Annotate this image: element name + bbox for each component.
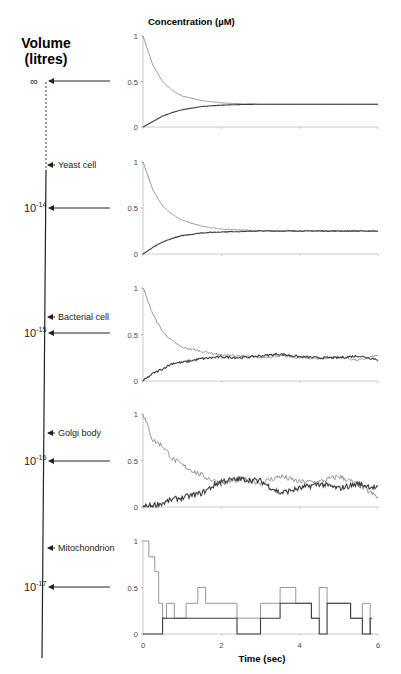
x-tick-label: 2 xyxy=(219,641,223,650)
time-axis-title: Time (sec) xyxy=(239,653,286,664)
concentration-panel: 00.51 xyxy=(128,32,378,132)
organelle-name: Yeast cell xyxy=(58,160,96,170)
organelle-name: Golgi body xyxy=(58,428,102,438)
organelle-labels: Yeast cellBacterial cellGolgi bodyMitoch… xyxy=(48,160,115,553)
concentration-panel: 00.510246 xyxy=(128,537,381,650)
y-tick-label: 0 xyxy=(134,503,138,512)
volume-levels: ∞10-1410-1510-1610-17 xyxy=(24,75,110,593)
y-tick-label: 0.5 xyxy=(128,204,138,213)
y-tick-label: 0 xyxy=(134,377,138,386)
organelle-label: Bacterial cell xyxy=(48,312,109,322)
y-tick-label: 0.5 xyxy=(128,78,138,87)
concentration-panel: 00.51 xyxy=(128,158,378,259)
volume-axis: Volume (litres) ∞10-1410-1510-1610-17 Ye… xyxy=(21,35,114,658)
concentration-panel: 00.51 xyxy=(128,410,378,512)
y-tick-label: 1 xyxy=(134,284,138,293)
organelle-name: Mitochondrion xyxy=(58,543,115,553)
volume-label: 10-15 xyxy=(24,326,46,339)
series-decaying-line xyxy=(143,288,378,361)
volume-level: ∞ xyxy=(30,75,110,87)
series-rising-line xyxy=(143,231,378,254)
organelle-label: Mitochondrion xyxy=(48,543,115,553)
series-rising-line xyxy=(143,104,378,127)
concentration-panel: 00.51 xyxy=(128,284,378,386)
y-tick-label: 0.5 xyxy=(128,331,138,340)
series-decaying-line xyxy=(143,36,378,104)
concentration-axis-title: Concentration (µM) xyxy=(148,16,235,27)
x-tick-label: 0 xyxy=(141,641,145,650)
volume-level: 10-16 xyxy=(24,454,110,467)
organelle-label: Yeast cell xyxy=(48,160,96,170)
y-tick-label: 1 xyxy=(134,410,138,419)
y-tick-label: 0 xyxy=(134,630,138,639)
y-tick-label: 0.5 xyxy=(128,457,138,466)
volume-title-line2: (litres) xyxy=(25,51,68,67)
organelle-label: Golgi body xyxy=(48,428,102,438)
series-rising-line xyxy=(143,477,378,507)
y-tick-label: 0 xyxy=(134,123,138,132)
y-tick-label: 0.5 xyxy=(128,584,138,593)
y-tick-label: 1 xyxy=(134,158,138,167)
x-tick-label: 4 xyxy=(298,641,302,650)
y-tick-label: 1 xyxy=(134,32,138,41)
figure-canvas: Volume (litres) ∞10-1410-1510-1610-17 Ye… xyxy=(0,0,401,674)
y-tick-label: 1 xyxy=(134,537,138,546)
volume-level: 10-14 xyxy=(24,201,110,214)
concentration-panels: 00.5100.5100.5100.5100.510246 xyxy=(128,32,381,650)
series-decaying-line xyxy=(143,162,378,231)
series-decaying-line xyxy=(143,541,372,634)
volume-label: 10-14 xyxy=(24,201,46,214)
organelle-name: Bacterial cell xyxy=(58,312,109,322)
volume-title-line1: Volume xyxy=(21,35,71,51)
x-tick-label: 6 xyxy=(376,641,380,650)
volume-label: ∞ xyxy=(30,75,38,87)
series-rising-line xyxy=(143,603,372,634)
volume-level: 10-17 xyxy=(24,580,110,593)
y-tick-label: 0 xyxy=(134,250,138,259)
volume-level: 10-15 xyxy=(24,326,110,339)
